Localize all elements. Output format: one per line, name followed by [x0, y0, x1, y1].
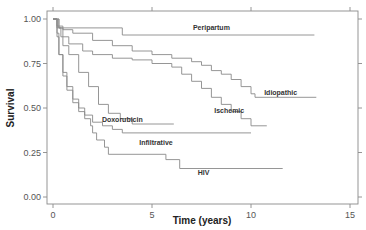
label-doxorubicin: Doxorubicin: [102, 116, 143, 123]
y-tick-label: 1.00: [23, 14, 41, 24]
x-tick-label: 10: [246, 210, 256, 220]
curve-labels: PeripartumIdiopathicIschemicDoxorubicinI…: [102, 24, 297, 177]
x-tick-label: 15: [345, 210, 355, 220]
label-infiltrative: Infiltrative: [139, 139, 173, 146]
label-idiopathic: Idiopathic: [264, 89, 297, 97]
x-tick-label: 0: [50, 210, 55, 220]
label-ischemic: Ischemic: [214, 107, 244, 114]
curve-peripartum: [53, 19, 314, 35]
survival-chart: 0.000.250.500.751.00 051015 PeripartumId…: [0, 0, 366, 230]
curve-idiopathic: [53, 19, 316, 97]
x-axis-title: Time (years): [173, 215, 232, 226]
y-tick-label: 0.25: [23, 148, 41, 158]
y-axis-title: Survival: [5, 88, 16, 127]
x-tick-label: 5: [149, 210, 154, 220]
y-tick-label: 0.50: [23, 103, 41, 113]
y-tick-label: 0.00: [23, 192, 41, 202]
label-hiv: HIV: [198, 169, 210, 176]
curve-infiltrative: [53, 19, 251, 133]
label-peripartum: Peripartum: [193, 24, 230, 32]
y-axis: 0.000.250.500.751.00: [23, 14, 362, 202]
y-tick-label: 0.75: [23, 59, 41, 69]
x-axis: 051015: [50, 7, 355, 220]
